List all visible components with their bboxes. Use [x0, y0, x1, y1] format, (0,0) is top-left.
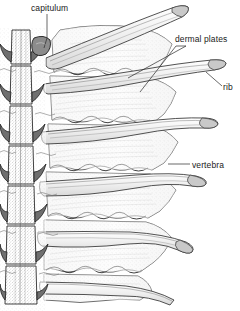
- illustration-drawing: [0, 0, 240, 311]
- label-dermal-plates: dermal plates: [175, 34, 227, 44]
- label-capitulum: capitulum: [31, 3, 68, 13]
- centrum-3: [9, 106, 33, 144]
- centrum-6: [6, 226, 36, 264]
- centrum-7: [5, 266, 37, 304]
- centrum-4: [8, 146, 34, 184]
- label-vertebra: vertebra: [192, 160, 224, 170]
- anatomical-figure: capitulum dermal plates rib vertebra: [0, 0, 240, 311]
- capitulum-head: [32, 36, 51, 55]
- label-rib: rib: [223, 82, 233, 92]
- centrum-5: [7, 186, 35, 224]
